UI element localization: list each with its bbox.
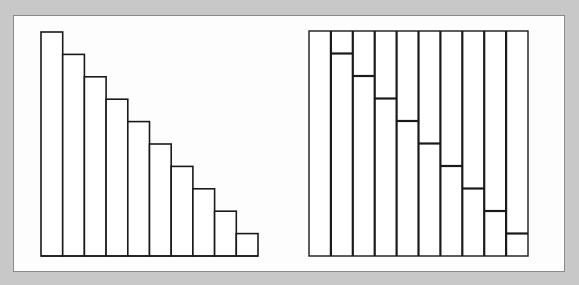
bar — [150, 144, 172, 256]
bar — [193, 189, 215, 256]
bar — [128, 122, 150, 256]
bar — [84, 77, 106, 256]
bar — [106, 99, 128, 256]
bar — [41, 32, 63, 256]
bar — [171, 166, 193, 256]
staircase-bar-chart — [41, 32, 258, 256]
stacked-remainder-chart — [309, 31, 528, 256]
bar — [215, 211, 237, 256]
bar — [63, 54, 85, 256]
bar — [236, 234, 258, 256]
diagram-canvas — [0, 0, 579, 285]
